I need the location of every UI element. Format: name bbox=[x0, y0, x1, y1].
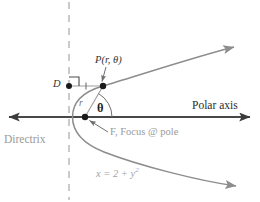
polar-axis-label: Polar axis bbox=[192, 100, 238, 112]
point-D-dot bbox=[66, 83, 72, 89]
leader-line-to-focus bbox=[90, 121, 109, 133]
point-P-label: P(r, θ) bbox=[95, 55, 122, 66]
radius-r-label: r bbox=[79, 99, 83, 109]
equation-exponent: 2 bbox=[135, 166, 139, 174]
point-D-label: D bbox=[53, 79, 61, 90]
directrix-label: Directrix bbox=[4, 134, 46, 146]
point-focus-dot bbox=[82, 114, 88, 120]
polar-parabola-figure: Polar axis Directrix P(r, θ) D r θ F, Fo… bbox=[0, 0, 260, 202]
point-P-dot bbox=[100, 83, 106, 89]
focus-label: F, Focus @ pole bbox=[110, 127, 178, 138]
equation-base: x = 2 + y bbox=[96, 168, 135, 179]
angle-theta-label: θ bbox=[97, 102, 104, 115]
curve-equation-label: x = 2 + y2 bbox=[96, 167, 139, 179]
leader-line-to-P bbox=[102, 67, 106, 82]
